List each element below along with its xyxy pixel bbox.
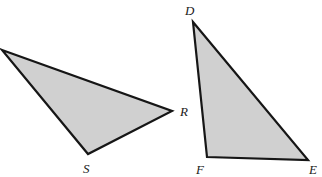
figure-canvas: R S D F E [0,0,322,177]
vertex-label-r: R [179,104,188,119]
vertex-label-f: F [195,162,205,177]
vertex-label-s: S [83,161,90,176]
vertex-label-d: D [184,3,195,18]
vertex-label-e: E [308,162,317,177]
geometry-figure: R S D F E [0,0,322,177]
